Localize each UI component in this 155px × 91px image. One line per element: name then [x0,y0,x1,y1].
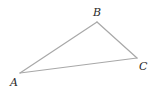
vertex-label-b: B [92,6,101,19]
triangle-diagram: A B C [0,0,155,91]
edge-ca [20,58,137,73]
vertex-label-c: C [139,60,148,73]
edge-ab [20,22,97,73]
edge-bc [97,22,137,58]
vertex-label-a: A [9,76,18,89]
